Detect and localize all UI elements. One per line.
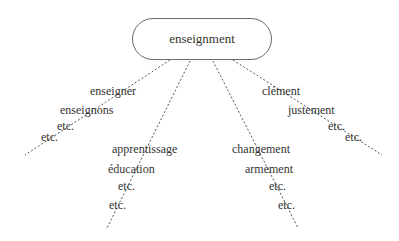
branch-nouns-tion-item-1: apprentissage (112, 142, 177, 156)
root-node: enseignment (132, 18, 272, 60)
branch-nouns-ment-item-1: changement (232, 142, 290, 156)
word-tree-diagram: enseignment enseigner enseignons etc. et… (0, 0, 399, 241)
branch-nouns-ment-item-2: armement (245, 162, 293, 176)
branch-adverbs-item-4: etc. (345, 130, 362, 144)
branch-adverbs-item-1: clément (262, 84, 300, 98)
branch-verbs-item-1: enseigner (90, 84, 136, 98)
branch-nouns-tion-item-2: éducation (108, 162, 155, 176)
branch-verbs-item-2: enseignons (60, 103, 113, 117)
branch-nouns-tion-item-4: etc. (109, 198, 126, 212)
branch-adverbs-item-3: etc. (328, 119, 345, 133)
root-label: enseignment (169, 31, 235, 47)
branch-verbs-item-3: etc. (57, 119, 74, 133)
branch-nouns-ment-item-3: etc. (269, 179, 286, 193)
branch-adverbs-item-2: justement (288, 103, 335, 117)
branch-nouns-tion-item-3: etc. (118, 179, 135, 193)
branch-nouns-ment-item-4: etc. (278, 198, 295, 212)
branch-verbs-item-4: etc. (41, 130, 58, 144)
